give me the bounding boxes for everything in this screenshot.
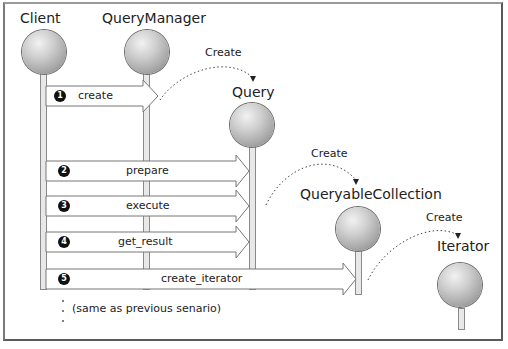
create-curves [0,0,508,349]
continuation-dot [62,300,64,302]
create-annotation-label: Create [426,211,463,224]
create-annotation-label: Create [311,147,348,160]
continuation-dot [62,320,64,322]
continuation-note: (same as previous senario) [72,302,221,315]
continuation-dot [62,310,64,312]
